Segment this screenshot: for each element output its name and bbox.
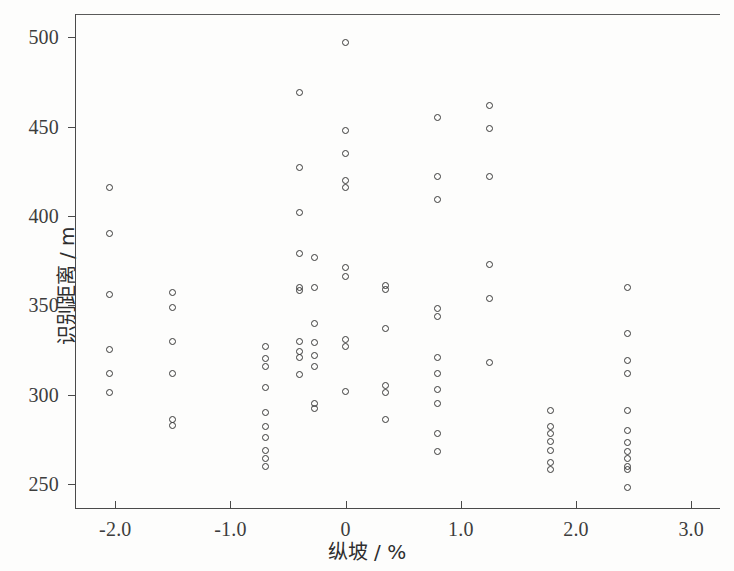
data-point <box>262 423 269 430</box>
data-point <box>547 447 554 454</box>
data-point <box>342 264 349 271</box>
data-point <box>106 291 113 298</box>
data-point <box>262 384 269 391</box>
data-point <box>382 382 389 389</box>
data-point <box>382 325 389 332</box>
data-point <box>311 339 318 346</box>
data-point <box>624 455 631 462</box>
scatter-plot-figure: 识别距离 / m 纵坡 / % 250300350400450500 -2.0-… <box>0 0 734 571</box>
y-tick-label: 250 <box>28 472 59 495</box>
data-point <box>434 400 441 407</box>
axis-top-spine <box>75 14 720 15</box>
data-point <box>624 484 631 491</box>
data-point <box>624 466 631 473</box>
data-point <box>342 273 349 280</box>
x-tick-label: -2.0 <box>99 518 131 541</box>
data-point <box>547 438 554 445</box>
data-point <box>624 407 631 414</box>
data-point <box>434 386 441 393</box>
y-tick-label: 450 <box>28 115 59 138</box>
data-point <box>624 330 631 337</box>
data-point <box>434 448 441 455</box>
data-point <box>262 455 269 462</box>
data-point <box>624 284 631 291</box>
data-point <box>296 371 303 378</box>
data-point <box>547 430 554 437</box>
data-point <box>296 287 303 294</box>
data-point <box>382 389 389 396</box>
data-point <box>106 184 113 191</box>
axis-bottom-spine <box>75 508 720 509</box>
data-point <box>382 286 389 293</box>
x-tick: -1.0 <box>230 501 231 509</box>
data-point <box>262 355 269 362</box>
data-point <box>342 150 349 157</box>
x-tick-label: 1.0 <box>448 518 474 541</box>
y-tick: 500 <box>68 37 75 38</box>
data-point <box>342 184 349 191</box>
data-point <box>624 448 631 455</box>
data-point <box>169 338 176 345</box>
data-point <box>624 370 631 377</box>
x-tick-label: -1.0 <box>214 518 246 541</box>
x-tick: 2.0 <box>576 501 577 509</box>
data-point <box>296 89 303 96</box>
data-point <box>169 304 176 311</box>
data-point <box>311 352 318 359</box>
x-tick: -2.0 <box>115 501 116 509</box>
data-point <box>311 284 318 291</box>
x-tick-label: 3.0 <box>678 518 704 541</box>
data-point <box>547 466 554 473</box>
y-tick: 300 <box>68 395 75 396</box>
data-point <box>262 363 269 370</box>
x-tick-label: 0 <box>341 518 351 541</box>
data-point <box>262 409 269 416</box>
data-point <box>296 209 303 216</box>
y-tick: 400 <box>68 216 75 217</box>
data-point <box>434 114 441 121</box>
x-tick: 0 <box>346 501 347 509</box>
data-point <box>434 196 441 203</box>
data-point <box>486 359 493 366</box>
data-point <box>547 459 554 466</box>
y-tick: 350 <box>68 305 75 306</box>
data-point <box>486 173 493 180</box>
data-point <box>547 407 554 414</box>
data-point <box>106 370 113 377</box>
data-point <box>434 305 441 312</box>
data-point <box>106 389 113 396</box>
y-tick-label: 500 <box>28 26 59 49</box>
data-point <box>311 405 318 412</box>
data-point <box>342 127 349 134</box>
data-point <box>106 346 113 353</box>
data-point <box>434 354 441 361</box>
data-point <box>311 320 318 327</box>
data-point <box>169 422 176 429</box>
y-tick-label: 350 <box>28 294 59 317</box>
axis-left-spine <box>75 14 76 509</box>
data-point <box>624 427 631 434</box>
data-point <box>342 177 349 184</box>
data-point <box>262 463 269 470</box>
x-tick: 3.0 <box>691 501 692 509</box>
data-point <box>624 357 631 364</box>
data-point <box>486 102 493 109</box>
data-point <box>434 370 441 377</box>
data-point <box>486 125 493 132</box>
data-point <box>342 343 349 350</box>
data-point <box>311 363 318 370</box>
plot-area: 250300350400450500 -2.0-1.001.02.03.0 <box>75 14 720 509</box>
data-point <box>547 423 554 430</box>
data-point <box>434 313 441 320</box>
data-point <box>106 230 113 237</box>
data-point <box>296 338 303 345</box>
x-tick: 1.0 <box>461 501 462 509</box>
data-point <box>486 261 493 268</box>
data-point <box>296 354 303 361</box>
data-point <box>169 289 176 296</box>
data-point <box>434 173 441 180</box>
data-point <box>169 370 176 377</box>
y-tick: 450 <box>68 127 75 128</box>
data-point <box>342 388 349 395</box>
data-point <box>296 250 303 257</box>
